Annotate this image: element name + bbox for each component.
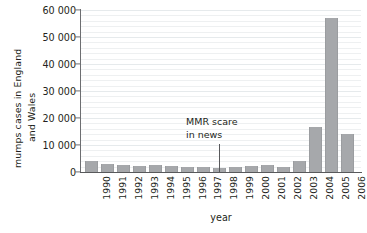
annotation-line1: MMR scare [186,116,238,129]
y-axis-tick-label: 30 000 [34,86,76,97]
bar [165,166,178,172]
bar [229,167,242,172]
x-axis-tick-label: 2003 [293,176,304,212]
y-axis-tick-label: 60 000 [34,5,76,16]
x-axis-tick-label: 1997 [197,176,208,212]
x-axis-tick-label: 1995 [165,176,176,212]
y-axis-tick-mark [75,144,80,145]
bar-series [81,10,361,172]
x-axis-tick-label: 2000 [245,176,256,212]
bar [101,164,114,172]
y-axis-tick-mark [75,36,80,37]
bar [245,166,258,172]
x-axis-tick-label: 1991 [101,176,112,212]
x-axis-tick-label: 1998 [213,176,224,212]
bar [341,134,354,172]
x-axis-tick-label: 2002 [277,176,288,212]
x-axis-tick-label: 2006 [341,176,352,212]
y-axis-tick-labels: 010 00020 00030 00040 00050 00060 000 [34,0,76,233]
bar [149,165,162,172]
bar [197,167,210,172]
y-axis-tick-label: 40 000 [34,59,76,70]
y-axis-tick-label: 20 000 [34,113,76,124]
y-axis-tick-mark [75,63,80,64]
x-axis-tick-label: 1994 [149,176,160,212]
x-axis-tick-labels: 1990199119921993199419951996199719981999… [81,174,361,214]
x-axis-tick-label: 1993 [133,176,144,212]
bar [85,161,98,172]
bar [133,166,146,172]
annotation-line2: in news [186,129,238,142]
x-axis-tick-label: 2004 [309,176,320,212]
y-axis-tick-label: 0 [34,167,76,178]
bar [309,127,322,172]
bar [277,167,290,172]
mumps-cases-bar-chart: mumps cases in England and Wales 010 000… [0,0,367,233]
y-axis-tick-label: 10 000 [34,140,76,151]
y-axis-tick-mark [75,171,80,172]
x-axis-tick-label: 1999 [229,176,240,212]
x-axis-tick-label: 2005 [325,176,336,212]
y-axis-title-line1: mumps cases in England [12,49,23,168]
bar [181,167,194,172]
y-axis-tick-label: 50 000 [34,32,76,43]
bar [261,165,274,172]
x-axis-tick-label: 1990 [85,176,96,212]
x-axis-tick-label: 2001 [261,176,272,212]
x-axis-title: year [81,212,361,223]
bar [325,18,338,172]
y-axis-tick-mark [75,9,80,10]
annotation-pointer-line [219,144,220,172]
y-axis-tick-mark [75,90,80,91]
bar [293,161,306,172]
y-axis-tick-mark [75,117,80,118]
mmr-scare-annotation: MMR scare in news [186,116,238,141]
x-axis-tick-label: 1992 [117,176,128,212]
x-axis-tick-label: 1996 [181,176,192,212]
bar [117,165,130,172]
